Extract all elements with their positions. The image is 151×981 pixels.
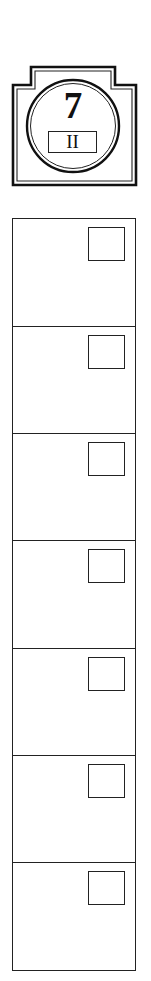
checkbox-square-icon[interactable] bbox=[88, 657, 125, 691]
checklist-cell bbox=[13, 540, 135, 648]
checkbox-square-icon[interactable] bbox=[88, 549, 125, 583]
badge-number: 7 bbox=[48, 88, 98, 124]
checklist-cell bbox=[13, 219, 135, 327]
checkbox-square-icon[interactable] bbox=[88, 335, 125, 369]
checklist-cell bbox=[13, 862, 135, 970]
checkbox-square-icon[interactable] bbox=[88, 764, 125, 798]
checklist-cell bbox=[13, 755, 135, 863]
level-badge: 7 II bbox=[0, 0, 151, 200]
badge-roman-numeral: II bbox=[48, 131, 97, 153]
checklist-cell bbox=[13, 648, 135, 756]
checkbox-square-icon[interactable] bbox=[88, 442, 125, 476]
checkbox-square-icon[interactable] bbox=[88, 871, 125, 905]
checklist-grid bbox=[12, 218, 136, 971]
checklist-cell bbox=[13, 326, 135, 434]
checkbox-square-icon[interactable] bbox=[88, 227, 125, 261]
checklist-cell bbox=[13, 433, 135, 541]
